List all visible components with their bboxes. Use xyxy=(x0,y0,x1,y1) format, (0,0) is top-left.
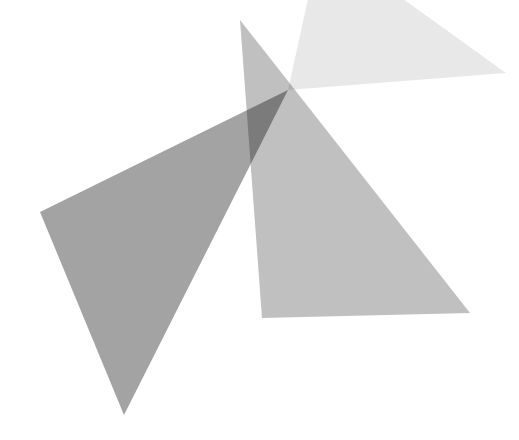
artwork-canvas xyxy=(0,0,519,440)
triangles-svg xyxy=(0,0,519,440)
